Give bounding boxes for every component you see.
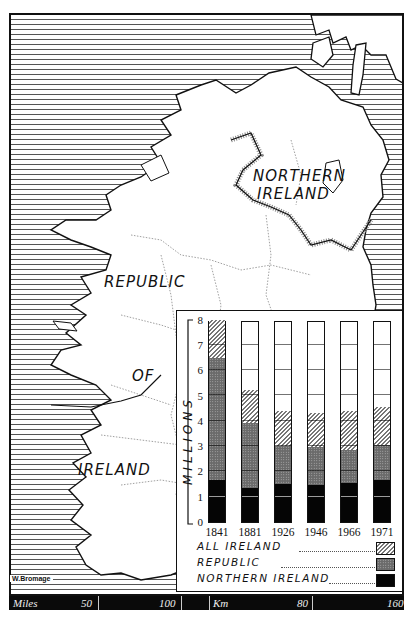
bar-gridline <box>242 369 258 370</box>
segment-northern-ireland <box>209 480 225 522</box>
legend-swatch-northern-ireland <box>376 574 395 587</box>
scale-gap <box>182 596 210 610</box>
segment-northern-ireland <box>275 484 291 522</box>
legend-leader-2 <box>281 567 375 568</box>
bar-gridline <box>275 344 291 345</box>
artist-signature: W.Bromage <box>10 575 53 582</box>
bar-gridline <box>308 445 324 446</box>
segment-republic <box>308 447 324 485</box>
bar-gridline <box>242 496 258 497</box>
y-tick-5: 5 <box>193 390 203 402</box>
bar-gridline <box>209 470 225 471</box>
segment-republic <box>242 423 258 488</box>
bar-gridline <box>209 496 225 497</box>
bar-gridline <box>308 394 324 395</box>
bar-gridline <box>341 369 357 370</box>
segment-republic <box>341 450 357 483</box>
bar-gridline <box>275 496 291 497</box>
kintyre <box>351 43 366 95</box>
bar-gridline <box>242 344 258 345</box>
bar-gridline <box>209 344 225 345</box>
bar-gridline <box>275 394 291 395</box>
bar-gridline <box>341 344 357 345</box>
y-tick-6: 6 <box>193 364 203 376</box>
segment-republic <box>374 445 390 480</box>
legend-label-northern-ireland: NORTHERN IRELAND <box>197 572 330 584</box>
x-label-1881: 1881 <box>235 526 265 538</box>
bar-gridline <box>374 369 390 370</box>
label-northern-ireland: NORTHERN IRELAND <box>253 167 346 203</box>
segment-all-ireland <box>209 320 225 358</box>
bar-gridline <box>374 496 390 497</box>
bar-gridline <box>308 369 324 370</box>
miles-tick-50: 50 <box>81 596 92 610</box>
y-tick-4: 4 <box>193 415 203 427</box>
legend-swatch-republic <box>376 558 395 571</box>
x-label-1971: 1971 <box>367 526 397 538</box>
bar-gridline <box>374 420 390 421</box>
bar-gridline <box>341 470 357 471</box>
km-tick-160: 160 <box>387 596 404 610</box>
bar-gridline <box>308 344 324 345</box>
bar-gridline <box>275 470 291 471</box>
legend-label-republic: REPUBLIC <box>197 556 260 568</box>
legend-swatch-all-ireland <box>376 542 395 555</box>
islay <box>311 37 333 67</box>
segment-northern-ireland <box>308 485 324 522</box>
bar-gridline <box>209 369 225 370</box>
bar-gridline <box>341 394 357 395</box>
bar-gridline <box>341 445 357 446</box>
miles-tick-100: 100 <box>159 596 176 610</box>
bar-gridline <box>242 420 258 421</box>
km-label: Km <box>213 596 228 610</box>
y-tick-7: 7 <box>193 339 203 351</box>
segment-northern-ireland <box>341 483 357 522</box>
bar-gridline <box>242 470 258 471</box>
population-chart: MILLIONS 012345678 184118811926194619661… <box>176 310 403 592</box>
label-republic: REPUBLIC <box>104 273 185 291</box>
bar-gridline <box>374 394 390 395</box>
bar-gridline <box>242 394 258 395</box>
bar-gridline <box>374 445 390 446</box>
bar-gridline <box>374 344 390 345</box>
x-label-1966: 1966 <box>334 526 364 538</box>
legend-leader-3 <box>329 583 375 584</box>
bar-gridline <box>275 369 291 370</box>
bar-gridline <box>275 445 291 446</box>
y-tick-2: 2 <box>193 465 203 477</box>
bar-gridline <box>209 420 225 421</box>
x-label-1946: 1946 <box>301 526 331 538</box>
segment-northern-ireland <box>374 480 390 522</box>
bar-1966 <box>340 321 358 523</box>
legend-all-ireland: ALL IRELAND <box>197 540 282 552</box>
segment-republic <box>275 446 291 484</box>
bar-gridline <box>275 420 291 421</box>
bar-gridline <box>308 470 324 471</box>
x-label-1926: 1926 <box>268 526 298 538</box>
y-tick-1: 1 <box>193 491 203 503</box>
km-tick-80: 80 <box>297 596 308 610</box>
bar-gridline <box>341 420 357 421</box>
bar-1926 <box>274 321 292 523</box>
segment-northern-ireland <box>242 488 258 522</box>
label-of: OF <box>132 367 154 385</box>
bar-gridline <box>308 496 324 497</box>
miles-label: Miles <box>13 596 37 610</box>
legend-northern-ireland: NORTHERN IRELAND <box>197 572 330 584</box>
bar-gridline <box>209 394 225 395</box>
segment-all-ireland <box>374 407 390 445</box>
legend-label-all-ireland: ALL IRELAND <box>197 540 282 552</box>
legend-leader-1 <box>299 551 375 552</box>
bar-gridline <box>341 496 357 497</box>
segment-all-ireland <box>341 411 357 450</box>
bar-gridline <box>242 445 258 446</box>
legend-republic: REPUBLIC <box>197 556 260 568</box>
x-label-1841: 1841 <box>202 526 232 538</box>
segment-all-ireland <box>275 411 291 446</box>
y-tick-8: 8 <box>193 314 203 326</box>
bar-gridline <box>308 420 324 421</box>
segment-all-ireland <box>308 413 324 447</box>
bar-gridline <box>209 445 225 446</box>
bar-gridline <box>374 470 390 471</box>
y-tick-3: 3 <box>193 440 203 452</box>
